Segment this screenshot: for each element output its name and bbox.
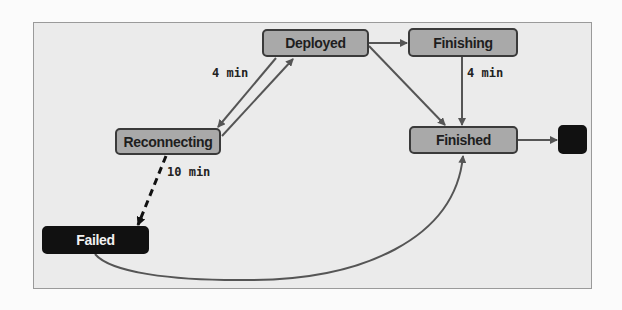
state-deployed: Deployed [262, 29, 369, 57]
state-failed-label: Failed [76, 232, 115, 248]
edge-label-finishing-finished: 4 min [467, 66, 503, 80]
state-finishing: Finishing [408, 28, 518, 57]
edge-label-reconnecting-failed: 10 min [167, 165, 210, 179]
edge-deployed-finished [369, 46, 445, 125]
edge-reconnecting-failed [138, 156, 166, 225]
state-finished-label: Finished [436, 132, 491, 148]
edge-failed-finished [95, 156, 463, 280]
state-reconnecting-label: Reconnecting [124, 134, 213, 150]
state-end-terminal [558, 125, 587, 154]
state-deployed-label: Deployed [285, 35, 346, 51]
state-finished: Finished [409, 126, 518, 154]
state-reconnecting: Reconnecting [115, 128, 221, 155]
state-finishing-label: Finishing [433, 35, 493, 51]
edge-label-deployed-reconnecting: 4 min [212, 66, 248, 80]
state-failed: Failed [42, 226, 149, 254]
